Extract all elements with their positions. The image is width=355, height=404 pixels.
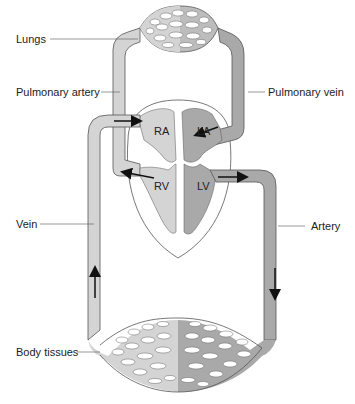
label-body-tissues: Body tissues	[16, 346, 78, 359]
circulation-diagram	[0, 0, 355, 404]
label-artery: Artery	[311, 220, 340, 233]
label-pulmonary-vein: Pulmonary vein	[268, 86, 344, 99]
lungs-capillary-bed	[140, 6, 218, 52]
chamber-rv: RV	[154, 180, 169, 193]
label-vein: Vein	[16, 218, 37, 231]
label-pulmonary-artery: Pulmonary artery	[16, 86, 100, 99]
body-tissues-capillary-bed	[88, 318, 276, 392]
label-lungs: Lungs	[16, 33, 46, 46]
chamber-lv: LV	[197, 180, 210, 193]
chamber-ra: RA	[154, 125, 169, 138]
chamber-la: LA	[197, 125, 210, 138]
